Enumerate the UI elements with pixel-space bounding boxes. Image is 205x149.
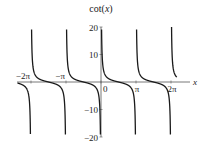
x-axis-label: x bbox=[192, 77, 197, 87]
x-tick-label: 2π bbox=[167, 84, 177, 94]
x-tick-label: π bbox=[135, 84, 140, 94]
y-tick-label: −10 bbox=[84, 105, 99, 115]
y-tick-label: −20 bbox=[84, 133, 99, 143]
cot-curve bbox=[17, 27, 176, 134]
cot-branch bbox=[172, 27, 177, 77]
plot-area: −2π−π0π2π2010−10−20 cot(x) x bbox=[0, 0, 205, 149]
x-tick-label: 0 bbox=[103, 84, 108, 94]
axes bbox=[17, 27, 190, 137]
x-tick-label: −π bbox=[55, 71, 65, 81]
y-tick-label: 10 bbox=[89, 50, 99, 60]
x-tick-label: −2π bbox=[16, 71, 31, 81]
y-tick-label: 20 bbox=[89, 23, 99, 33]
cot-chart: −2π−π0π2π2010−10−20 cot(x) x bbox=[0, 0, 205, 149]
cot-branch bbox=[17, 83, 30, 134]
chart-title: cot(x) bbox=[89, 3, 112, 15]
